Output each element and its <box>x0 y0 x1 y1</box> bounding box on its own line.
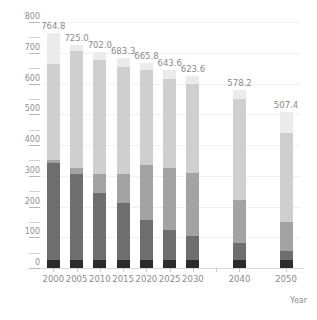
bar-segment-4 <box>47 64 60 161</box>
bar-value-label: 764.8 <box>41 22 65 31</box>
y-tick-minor <box>29 160 40 161</box>
y-tick-minor <box>29 37 40 38</box>
x-tick <box>123 268 124 272</box>
y-axis-label: 600 <box>10 75 40 83</box>
y-tick-major <box>29 176 40 177</box>
bar-segment-2 <box>280 251 293 260</box>
y-tick-major <box>29 53 40 54</box>
y-axis-label: 400 <box>10 136 40 144</box>
y-tick-major <box>29 145 40 146</box>
y-tick-minor <box>29 99 40 100</box>
bar-segment-2 <box>47 163 60 260</box>
bar-value-label: 623.6 <box>181 65 205 74</box>
bar-2010[interactable] <box>93 52 106 268</box>
bar-segment-2 <box>70 174 83 260</box>
bar-value-label: 683.3 <box>111 47 135 56</box>
bar-segment-5 <box>233 90 246 99</box>
y-axis-label: 100 <box>10 228 40 236</box>
stacked-bar-chart: 0100200300400500600700800 20002005201020… <box>0 0 317 320</box>
x-tick <box>286 268 287 272</box>
bar-segment-5 <box>93 52 106 60</box>
bar-segment-2 <box>93 193 106 261</box>
bar-segment-1 <box>117 260 130 268</box>
bar-2030[interactable] <box>186 76 199 268</box>
bar-2025[interactable] <box>163 70 176 268</box>
bar-segment-4 <box>233 99 246 200</box>
y-axis-label: 800 <box>10 13 40 21</box>
x-tick <box>193 268 194 272</box>
bar-segment-2 <box>117 203 130 260</box>
y-axis-label: 700 <box>10 44 40 52</box>
bar-segment-1 <box>70 260 83 268</box>
bar-segment-1 <box>163 260 176 268</box>
bar-2005[interactable] <box>70 45 83 268</box>
bar-2040[interactable] <box>233 90 246 268</box>
bar-segment-4 <box>70 51 83 168</box>
x-tick <box>53 268 54 272</box>
bar-segment-3 <box>93 174 106 192</box>
bar-segment-2 <box>163 230 176 261</box>
x-tick <box>100 268 101 272</box>
y-tick-minor <box>29 130 40 131</box>
bar-segment-4 <box>140 70 153 165</box>
bar-value-label: 725.0 <box>64 34 88 43</box>
bar-value-label: 578.2 <box>227 79 251 88</box>
x-axis-line <box>40 268 304 269</box>
y-tick-minor <box>29 191 40 192</box>
bar-segment-5 <box>280 112 293 133</box>
bar-2020[interactable] <box>140 63 153 268</box>
x-tick <box>77 268 78 272</box>
bar-segment-3 <box>163 168 176 230</box>
y-tick-major <box>29 237 40 238</box>
bar-value-label: 665.8 <box>134 52 158 61</box>
bar-segment-5 <box>163 70 176 79</box>
bar-segment-5 <box>47 33 60 64</box>
x-axis-label: 2015 <box>112 275 134 284</box>
x-tick <box>170 268 171 272</box>
x-axis-title: Year <box>290 296 307 305</box>
bar-segment-4 <box>93 60 106 174</box>
x-axis-label: 2005 <box>66 275 88 284</box>
bar-value-label: 643.6 <box>158 59 182 68</box>
bar-2015[interactable] <box>117 58 130 268</box>
bar-value-label: 702.0 <box>88 41 112 50</box>
bar-value-label: 507.4 <box>274 101 298 110</box>
x-axis-label: 2040 <box>229 275 251 284</box>
x-axis-label: 2000 <box>42 275 64 284</box>
bar-segment-1 <box>280 260 293 268</box>
bar-segment-4 <box>186 84 199 173</box>
y-tick-major <box>29 268 40 269</box>
gridline <box>44 22 300 23</box>
bar-segment-1 <box>140 260 153 268</box>
x-tick-blank <box>216 268 217 272</box>
bar-segment-3 <box>280 222 293 251</box>
y-axis-label: 0 <box>10 259 40 267</box>
x-axis-label: 2050 <box>275 275 297 284</box>
x-axis-label: 2020 <box>136 275 158 284</box>
bar-segment-4 <box>163 79 176 168</box>
bar-segment-4 <box>117 67 130 175</box>
bar-segment-3 <box>233 200 246 243</box>
x-tick <box>146 268 147 272</box>
y-tick-major <box>29 207 40 208</box>
bar-segment-3 <box>186 173 199 236</box>
bar-segment-2 <box>186 236 199 261</box>
bar-segment-4 <box>280 133 293 222</box>
bar-segment-3 <box>117 174 130 203</box>
x-axis-label: 2030 <box>182 275 204 284</box>
bar-segment-5 <box>186 76 199 83</box>
y-axis-label: 300 <box>10 167 40 175</box>
bar-segment-2 <box>140 220 153 260</box>
x-axis-label: 2010 <box>89 275 111 284</box>
y-tick-minor <box>29 68 40 69</box>
bar-segment-1 <box>233 260 246 268</box>
bar-2000[interactable] <box>47 33 60 268</box>
bar-2050[interactable] <box>280 112 293 268</box>
bar-segment-1 <box>47 260 60 268</box>
y-tick-minor <box>29 253 40 254</box>
bar-segment-3 <box>140 165 153 220</box>
bar-segment-5 <box>117 58 130 67</box>
bar-segment-1 <box>93 260 106 268</box>
bar-segment-1 <box>186 260 199 268</box>
y-axis-label: 500 <box>10 105 40 113</box>
